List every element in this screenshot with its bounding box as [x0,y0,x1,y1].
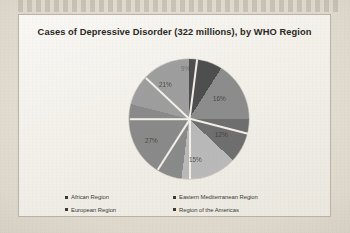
pie-label-western-pacific: 21% [159,81,172,88]
pie-label-south-east-asia: 27% [145,137,158,144]
legend-swatch-icon [65,196,68,199]
pie-label-americas: 12% [215,131,228,138]
page-title: Cases of Depressive Disorder (322 millio… [19,27,330,37]
pie-label-eastern-mediterranean: 16% [213,95,226,102]
legend-swatch-icon [65,208,68,211]
pie-chart: 9% 16% 12% 15% 27% 21% [129,59,249,179]
pie-label-european: 15% [189,156,202,163]
legend-item-african-region: African Region [65,191,169,204]
legend-item-western-pacific-region: Western Pacific Region [173,216,299,217]
legend-swatch-icon [173,208,176,211]
legend-label: European Region [71,207,116,213]
legend-item-eastern-mediterranean-region: Eastern Mediterranean Region [173,191,299,204]
chart-legend: African Region Eastern Mediterranean Reg… [65,191,295,217]
legend-label: Region of the Americas [179,207,239,213]
legend-label: African Region [71,194,109,200]
chart-card: Cases of Depressive Disorder (322 millio… [18,14,331,217]
legend-item-region-of-the-americas: Region of the Americas [173,204,299,217]
legend-swatch-icon [173,196,176,199]
pie-label-african: 9% [181,65,190,72]
pie-separator [130,118,190,120]
legend-label: Eastern Mediterranean Region [179,194,258,200]
legend-item-european-region: European Region [65,204,169,217]
pie-separator [189,119,191,179]
legend-item-south-east-asia-region: South-East Asia Region [65,216,169,217]
